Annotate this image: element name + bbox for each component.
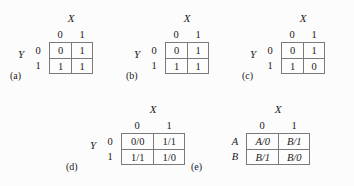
table-b-row-header-1: 1 [148,58,160,73]
table-e-row-header-1: B [229,149,241,164]
table-a-grid: 0 1 1 1 [49,42,93,74]
table-a-col-header-0: 0 [49,29,71,40]
table-d-grid: 0/0 1/1 1/1 1/0 [121,133,185,165]
table-b-side-label: Y [132,49,142,60]
table-d-side-label: Y [88,140,98,151]
table-b-grid: 0 1 1 1 [165,42,209,74]
table-row: 0 1 [166,43,208,58]
table-c-row-header-1: 1 [264,58,276,73]
table-e-cell-0-1: B/1 [278,134,309,149]
table-row: 0/0 1/1 [122,134,184,149]
table-e-cell-0-0: A/0 [247,134,278,149]
table-e-cell-1-0: B/1 [247,150,278,165]
table-b-col-header-0: 0 [165,29,187,40]
table-c-cell-1-0: 1 [282,59,303,74]
table-c-cell-0-0: 0 [282,43,303,58]
table-a-top-label: X [49,13,93,24]
table-b-top-label: X [165,13,209,24]
table-e-col-header-1: 1 [278,120,310,131]
table-c-column-headers: 0 1 [281,29,325,40]
table-c-side-label: Y [248,49,258,60]
table-d-row-header-0: 0 [104,134,116,149]
table-b-column-headers: 0 1 [165,29,209,40]
table-d-cell-0-0: 0/0 [122,134,153,149]
table-a-column-headers: 0 1 [49,29,93,40]
table-d-row-headers: 0 1 [104,134,116,164]
table-c-caption: (c) [242,70,253,81]
table-row: A/0 B/1 [247,134,309,149]
table-e-cell-1-1: B/0 [278,150,309,165]
table-d-top-label: X [121,104,185,115]
table-b-row-headers: 0 1 [148,43,160,73]
table-row: 0 1 [50,43,92,58]
truth-table-figure: X 0 1 Y 0 1 0 1 1 1 (a) X 0 1 Y [0,0,354,186]
table-row: B/1 B/0 [247,149,309,165]
table-b-cell-0-1: 1 [187,43,208,58]
table-a-cell-0-1: 1 [71,43,92,58]
table-a-row-header-0: 0 [32,43,44,58]
table-b-cell-1-0: 1 [166,59,187,74]
table-c-col-header-1: 1 [303,29,325,40]
table-b-row-header-0: 0 [148,43,160,58]
table-c-cell-1-1: 0 [303,59,324,74]
table-e-caption: (e) [191,161,202,172]
table-e-row-header-0: A [229,134,241,149]
table-row: 1 1 [166,58,208,74]
table-b-cell-1-1: 1 [187,59,208,74]
table-b-col-header-1: 1 [187,29,209,40]
table-d-cell-0-1: 1/1 [153,134,184,149]
table-e-top-label: X [246,104,310,115]
table-d-col-header-1: 1 [153,120,185,131]
table-d-col-header-0: 0 [121,120,153,131]
table-a-col-header-1: 1 [71,29,93,40]
table-d-row-header-1: 1 [104,149,116,164]
table-b-caption: (b) [126,70,138,81]
table-e-grid: A/0 B/1 B/1 B/0 [246,133,310,165]
table-row: 1/1 1/0 [122,149,184,165]
table-c-row-headers: 0 1 [264,43,276,73]
table-b-cell-0-0: 0 [166,43,187,58]
table-a-cell-1-1: 1 [71,59,92,74]
table-c-row-header-0: 0 [264,43,276,58]
table-e-col-header-0: 0 [246,120,278,131]
table-row: 1 0 [282,58,324,74]
table-a-side-label: Y [16,49,26,60]
table-a-row-headers: 0 1 [32,43,44,73]
table-d-column-headers: 0 1 [121,120,185,131]
table-row: 0 1 [282,43,324,58]
table-d-caption: (d) [66,161,78,172]
table-a-cell-1-0: 1 [50,59,71,74]
table-e-column-headers: 0 1 [246,120,310,131]
table-a-cell-0-0: 0 [50,43,71,58]
table-e-row-headers: A B [229,134,241,164]
table-a-row-header-1: 1 [32,58,44,73]
table-d-cell-1-1: 1/0 [153,150,184,165]
table-d-cell-1-0: 1/1 [122,150,153,165]
table-c-grid: 0 1 1 0 [281,42,325,74]
table-row: 1 1 [50,58,92,74]
table-c-top-label: X [281,13,325,24]
table-a-caption: (a) [10,70,21,81]
table-c-cell-0-1: 1 [303,43,324,58]
table-c-col-header-0: 0 [281,29,303,40]
